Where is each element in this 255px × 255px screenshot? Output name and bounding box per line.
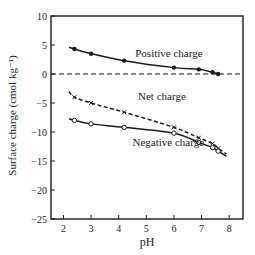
y-tick-label: −25 <box>31 214 47 225</box>
y-tick-label: −5 <box>36 98 47 109</box>
data-point <box>89 122 93 126</box>
data-point <box>197 67 201 71</box>
series-layer: Positive chargeNet chargeNegative charge <box>69 47 226 157</box>
x-axis: 2345678 <box>61 215 232 234</box>
x-tick-label: 7 <box>199 223 204 234</box>
data-point <box>72 47 76 51</box>
x-tick-label: 4 <box>116 223 121 234</box>
x-tick-label: 5 <box>144 223 149 234</box>
data-point <box>172 65 176 69</box>
y-tick-label: 0 <box>42 69 47 80</box>
x-tick-label: 8 <box>227 223 232 234</box>
series-label: Net charge <box>138 90 186 102</box>
series-negative-charge: Negative charge <box>69 118 226 156</box>
series-label: Negative charge <box>132 136 204 148</box>
data-point <box>210 145 214 149</box>
y-tick-label: 5 <box>42 40 47 51</box>
data-point <box>122 58 126 62</box>
data-point <box>216 72 220 76</box>
x-tick-label: 3 <box>89 223 94 234</box>
y-tick-label: −15 <box>31 156 47 167</box>
x-axis-label: pH <box>140 235 155 249</box>
series-label: Positive charge <box>135 47 202 59</box>
data-point <box>72 118 76 122</box>
data-point <box>89 52 93 56</box>
x-tick-label: 2 <box>61 223 66 234</box>
x-tick-label: 6 <box>171 223 176 234</box>
y-tick-label: −20 <box>31 185 47 196</box>
data-point <box>172 131 176 135</box>
y-axis-label: Surface charge (cmol kg⁻¹) <box>6 55 19 176</box>
surface-charge-chart: 1050−5−10−15−20−25 2345678 Positive char… <box>0 0 255 255</box>
data-point <box>122 125 126 129</box>
data-point <box>216 149 220 153</box>
y-tick-label: 10 <box>37 11 47 22</box>
y-tick-label: −10 <box>31 127 47 138</box>
data-point <box>210 70 214 74</box>
series-positive-charge: Positive charge <box>69 47 220 76</box>
